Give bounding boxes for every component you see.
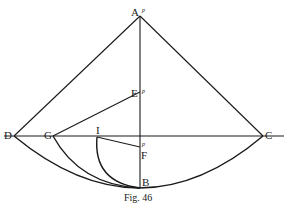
label-I: I [96,124,100,136]
label-B: B [142,176,149,188]
label-D: D [4,129,12,141]
geometry-figure: A p E p F p D G I C B Fig. 46 [0,0,289,206]
line-AC [140,16,263,136]
marker-A: p [141,7,145,13]
line-AD [14,16,140,136]
marker-F: p [141,141,145,147]
label-E: E [131,87,138,99]
label-G: G [44,129,52,141]
marker-E: p [141,88,145,94]
figure-caption: Fig. 46 [124,192,152,203]
label-C: C [265,129,272,141]
arc-DBC [14,136,263,188]
label-F: F [141,149,147,161]
label-A: A [131,6,139,18]
line-IF [97,137,140,147]
